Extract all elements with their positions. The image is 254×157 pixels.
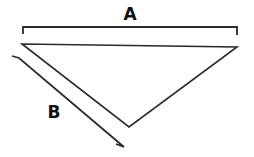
- dimension-line-a: [23, 27, 237, 35]
- dimension-label-b: B: [48, 102, 61, 122]
- diagram-svg: A B: [0, 0, 254, 157]
- figure-canvas: A B: [0, 0, 254, 157]
- dimension-label-a: A: [123, 4, 137, 24]
- dimension-line-b: [12, 56, 124, 147]
